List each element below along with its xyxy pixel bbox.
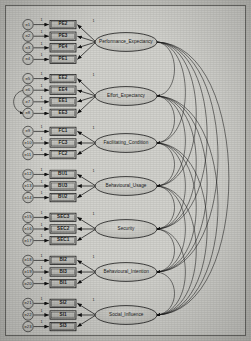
error-term-e1[interactable] [23, 19, 33, 29]
error-term-e5[interactable] [23, 73, 33, 83]
loading-path-social-influence-to-SI3 [77, 315, 96, 327]
error-term-e14[interactable] [23, 192, 33, 202]
error-covariance-arc-e6-e8 [14, 90, 24, 113]
error-term-e20[interactable] [23, 278, 33, 288]
error-term-e7[interactable] [23, 97, 33, 107]
covariance-arc-facilitating-condition-behavioural-intention [157, 143, 197, 272]
latent-factor-facilitating-condition[interactable] [95, 134, 157, 153]
screenshot-root: e11PE2e21PE3e31PE4e41PE1Performance_Expe… [0, 0, 251, 341]
error-term-e11[interactable] [23, 149, 33, 159]
latent-factor-security[interactable] [95, 220, 157, 239]
covariance-arc-behavioural-usage-social-influence [157, 186, 197, 315]
loading-path-behavioural-intention-to-BI2 [77, 260, 96, 272]
error-term-e19[interactable] [23, 267, 33, 277]
error-term-e2[interactable] [23, 31, 33, 41]
error-term-e6[interactable] [23, 85, 33, 95]
diagram-canvas: e11PE2e21PE3e31PE4e41PE1Performance_Expe… [5, 5, 246, 336]
error-term-e10[interactable] [23, 138, 33, 148]
error-term-e23[interactable] [23, 321, 33, 331]
latent-factor-behavioural-usage[interactable] [95, 177, 157, 196]
error-term-e18[interactable] [23, 255, 33, 265]
node-layer [23, 19, 157, 331]
error-term-e3[interactable] [23, 43, 33, 53]
error-term-e4[interactable] [23, 54, 33, 64]
error-term-e8[interactable] [23, 108, 33, 118]
covariance-layer [157, 42, 229, 315]
loading-path-security-to-SEC1 [77, 229, 96, 241]
error-term-e22[interactable] [23, 310, 33, 320]
loading-path-security-to-SEC3 [77, 217, 96, 229]
latent-factor-performance-expectancy[interactable] [95, 33, 157, 52]
loading-path-social-influence-to-SI2 [77, 303, 96, 315]
error-term-e15[interactable] [23, 212, 33, 222]
diagram-svg [6, 6, 246, 336]
latent-factor-social-influence[interactable] [95, 306, 157, 325]
error-term-e21[interactable] [23, 298, 33, 308]
latent-factor-effort-expectancy[interactable] [95, 87, 157, 106]
loading-path-facilitating-condition-to-FC1 [77, 131, 96, 143]
error-term-e9[interactable] [23, 126, 33, 136]
covariance-arc-facilitating-condition-social-influence [157, 143, 208, 315]
loading-path-behavioural-intention-to-BI1 [77, 272, 96, 284]
covariance-arc-performance-expectancy-effort-expectancy [157, 42, 175, 96]
covariance-arc-performance-expectancy-behavioural-intention [157, 42, 219, 272]
error-term-e12[interactable] [23, 169, 33, 179]
covariance-arc-effort-expectancy-security [157, 96, 197, 229]
loading-path-behavioural-usage-to-BU2 [77, 186, 96, 198]
error-term-e16[interactable] [23, 224, 33, 234]
latent-factor-behavioural-intention[interactable] [95, 263, 157, 282]
covariance-arc-performance-expectancy-facilitating-condition [157, 42, 186, 143]
loading-path-behavioural-usage-to-BU1 [77, 174, 96, 186]
error-term-e13[interactable] [23, 181, 33, 191]
error-term-e17[interactable] [23, 235, 33, 245]
loading-path-facilitating-condition-to-FC2 [77, 143, 96, 155]
